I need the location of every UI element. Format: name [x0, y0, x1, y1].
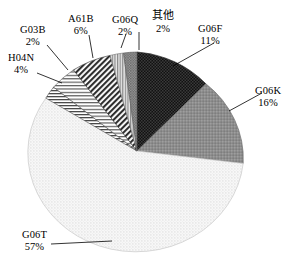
slice-label-g03b: G03B 2% [20, 24, 46, 49]
pie-chart: G03B 2% A61B 6% G06Q 2% 其他 2% G06F 11% G… [0, 0, 302, 266]
slice-label-g06f-percent: 11% [198, 35, 222, 47]
slice-label-other-percent: 2% [152, 23, 174, 35]
slice-label-g06f: G06F 11% [198, 23, 222, 48]
slice-label-g06q-name: G06Q [112, 14, 138, 26]
slice-label-h04n-percent: 4% [8, 64, 34, 76]
slice-label-a61b: A61B 6% [68, 13, 94, 38]
slice-label-g06q-percent: 2% [112, 26, 138, 38]
slice-label-g06k: G06K 16% [255, 85, 281, 110]
slice-label-other: 其他 2% [152, 10, 174, 35]
slice-label-g06k-percent: 16% [255, 97, 281, 109]
slice-label-a61b-percent: 6% [68, 25, 94, 37]
slice-label-g06t-name: G06T [22, 229, 47, 241]
slice-label-h04n: H04N 4% [8, 52, 34, 77]
slice-label-g06k-name: G06K [255, 85, 281, 97]
leader-line-g03b [47, 45, 68, 70]
slice-label-g06t-percent: 57% [22, 241, 47, 253]
leader-line-h04n [37, 73, 62, 83]
slice-label-other-name: 其他 [152, 10, 174, 23]
slice-label-h04n-name: H04N [8, 52, 34, 64]
slice-label-g03b-percent: 2% [20, 36, 46, 48]
leader-line-a61b [89, 35, 93, 58]
slice-label-g06q: G06Q 2% [112, 14, 138, 39]
slice-label-a61b-name: A61B [68, 13, 94, 25]
slice-label-g06t: G06T 57% [22, 229, 47, 254]
slice-label-g06f-name: G06F [198, 23, 222, 35]
slice-label-g03b-name: G03B [20, 24, 46, 36]
